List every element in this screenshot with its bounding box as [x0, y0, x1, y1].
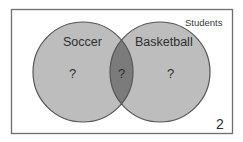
intersection-value: ? [118, 67, 125, 80]
universe-label: Students [185, 18, 223, 28]
outside-value: 2 [216, 117, 224, 131]
soccer-only-value: ? [69, 67, 76, 80]
basketball-label: Basketball [135, 36, 193, 49]
soccer-label: Soccer [63, 36, 102, 49]
basketball-only-value: ? [167, 67, 174, 80]
